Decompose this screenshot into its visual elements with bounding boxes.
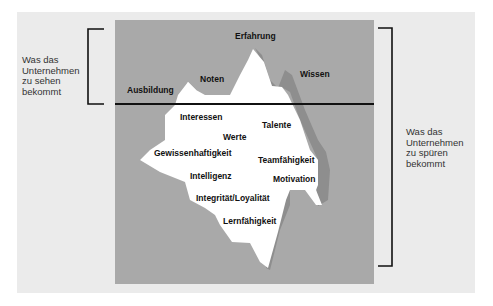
label-teamfaehigkeit: Teamfähigkeit (258, 156, 315, 165)
hidden-label-line: zu spüren (406, 148, 464, 159)
label-motivation: Motivation (273, 175, 316, 184)
label-interessen: Interessen (180, 113, 223, 122)
label-erfahrung: Erfahrung (235, 32, 276, 41)
label-gewissenhaftigkeit: Gewissenhaftigkeit (154, 149, 231, 158)
hidden-part-label: Was das Unternehmen zu spüren bekommt (406, 127, 464, 169)
bracket-hidden (378, 28, 392, 266)
visible-part-label: Was das Unternehmen zu sehen bekommt (22, 55, 80, 97)
label-integritaet-loyalitaet: Integrität/Loyalität (196, 194, 270, 203)
visible-label-line: Was das (22, 55, 80, 66)
hidden-label-line: Was das (406, 127, 464, 138)
label-wissen: Wissen (300, 70, 330, 79)
label-lernfaehigkeit: Lernfähigkeit (223, 217, 276, 226)
label-werte: Werte (223, 133, 246, 142)
label-ausbildung: Ausbildung (127, 86, 174, 95)
hidden-label-line: bekommt (406, 159, 464, 170)
visible-label-line: bekommt (22, 87, 80, 98)
label-intelligenz: Intelligenz (190, 172, 232, 181)
label-noten: Noten (200, 75, 224, 84)
bracket-visible (88, 29, 104, 104)
visible-label-line: zu sehen (22, 76, 80, 87)
label-talente: Talente (262, 121, 291, 130)
